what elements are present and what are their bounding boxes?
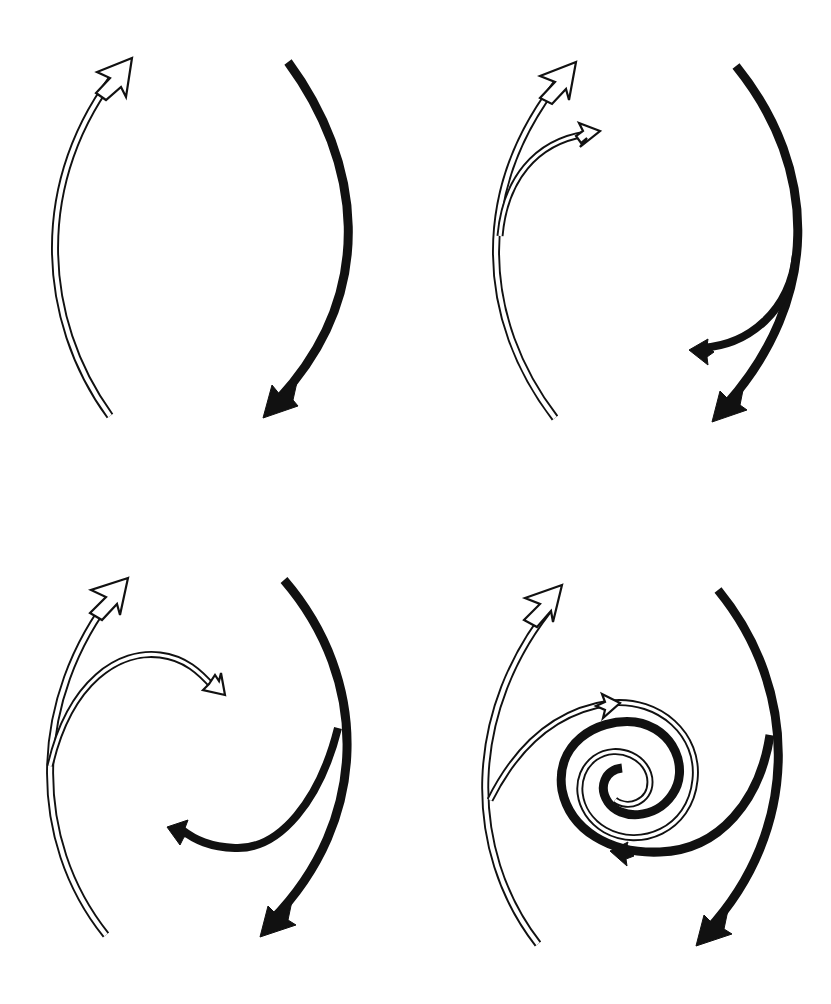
main-downflow-solid-arrow-shaft bbox=[278, 62, 348, 400]
main-upflow-hollow-arrow-shaft bbox=[485, 602, 555, 944]
main-downflow-solid-arrow-shaft bbox=[726, 66, 798, 405]
main-upflow-hollow-arrow-shaft bbox=[55, 68, 120, 416]
main-upflow-head-hollow-arrowhead-icon bbox=[90, 578, 128, 620]
main-downflow-head-solid-arrowhead-icon bbox=[263, 373, 299, 418]
vortex-formation-diagram bbox=[0, 0, 831, 1004]
downflow-branch-head-solid-arrowhead-icon bbox=[167, 820, 192, 845]
upflow-branch-hollow-arrow-shaft bbox=[50, 654, 214, 766]
downflow-branch-head-solid-arrowhead-icon bbox=[689, 339, 714, 365]
panel-1 bbox=[55, 58, 348, 418]
main-downflow-head-solid-arrowhead-icon bbox=[260, 896, 296, 937]
main-upflow-head-hollow-arrowhead-icon bbox=[540, 62, 576, 104]
panel-2 bbox=[496, 62, 798, 422]
main-downflow-head-solid-arrowhead-icon bbox=[712, 380, 747, 422]
main-upflow-head-hollow-arrowhead-icon bbox=[524, 585, 562, 627]
panels-root bbox=[50, 58, 798, 946]
upflow-branch-spiral-hollow-arrow-shaft bbox=[490, 703, 695, 838]
main-downflow-head-solid-arrowhead-icon bbox=[696, 905, 732, 946]
main-upflow-head-hollow-arrowhead-icon bbox=[96, 58, 132, 100]
upflow-branch-head-hollow-arrowhead-icon bbox=[576, 123, 600, 147]
downflow-branch-solid-arrow-shaft bbox=[702, 255, 796, 348]
upflow-branch-hollow-arrow-shaft bbox=[500, 134, 586, 236]
panel-4 bbox=[485, 585, 778, 946]
downflow-branch-solid-arrow-shaft bbox=[182, 728, 338, 848]
upflow-branch-mid-head-hollow-arrowhead-icon bbox=[596, 694, 620, 718]
panel-3 bbox=[50, 578, 347, 937]
main-upflow-hollow-arrow-shaft bbox=[496, 75, 563, 418]
main-upflow-hollow-arrow-shaft bbox=[50, 592, 115, 935]
